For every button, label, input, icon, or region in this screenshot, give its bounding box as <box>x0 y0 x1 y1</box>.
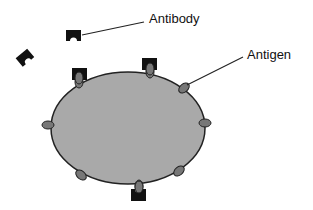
antigen-icon <box>75 72 83 84</box>
antigen-icon <box>199 119 211 127</box>
antigen-icon <box>42 121 54 129</box>
antibody-leader-line <box>82 22 144 35</box>
antibody-icon <box>16 49 35 67</box>
antigen-icon <box>146 63 154 75</box>
antibody-label: Antibody <box>149 11 200 26</box>
antibody-antigen-diagram: Antibody Antigen <box>0 0 313 210</box>
antibody-icon <box>66 30 81 41</box>
antigen-label: Antigen <box>247 47 291 62</box>
antigen-leader-line <box>187 57 243 85</box>
antigen-icon <box>135 181 143 193</box>
free-antibodies <box>16 30 81 67</box>
